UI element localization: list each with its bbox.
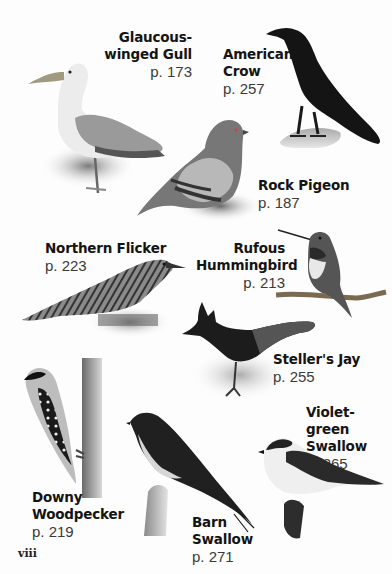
bird-name: Glaucous- <box>80 29 192 46</box>
page-reference: p. 213 <box>196 274 285 291</box>
page-reference: p. 271 <box>192 548 272 565</box>
bird-name: Crow <box>223 63 313 80</box>
pigeon-illustration <box>135 118 265 223</box>
page-number: viii <box>18 547 37 560</box>
bird-name: Rock Pigeon <box>258 177 368 194</box>
flicker-illustration <box>20 250 190 340</box>
woodpecker-illustration <box>20 358 110 498</box>
bird-name: Hummingbird <box>196 257 285 274</box>
bird-label-pigeon: Rock Pigeon p. 187 <box>258 177 368 211</box>
bird-label-gull: Glaucous- winged Gull p. 173 <box>80 29 192 80</box>
bird-label-woodpecker: Downy Woodpecker p. 219 <box>32 489 132 540</box>
bird-label-crow: American Crow p. 257 <box>223 46 313 97</box>
bird-label-jay: Steller's Jay p. 255 <box>273 351 383 385</box>
bird-name: American <box>223 46 313 63</box>
bird-name: Barn <box>192 514 272 531</box>
bird-name: Rufous <box>196 240 285 257</box>
bird-label-barn-swallow: Barn Swallow p. 271 <box>192 514 272 565</box>
page-reference: p. 255 <box>273 368 383 385</box>
page-reference: p. 257 <box>223 80 313 97</box>
bird-name: Woodpecker <box>32 506 132 523</box>
violet-green-swallow-illustration <box>258 434 388 544</box>
bird-name: Swallow <box>192 531 272 548</box>
field-guide-page: Glaucous- winged Gull p. 173 American Cr… <box>0 0 392 574</box>
bird-name: winged Gull <box>80 46 192 63</box>
page-reference: p. 173 <box>80 63 192 80</box>
page-reference: p. 187 <box>258 194 368 211</box>
page-reference: p. 219 <box>32 523 132 540</box>
bird-name: Steller's Jay <box>273 351 383 368</box>
bird-name: Downy <box>32 489 132 506</box>
bird-name: Violet-green <box>306 404 392 438</box>
bird-label-hummingbird: Rufous Hummingbird p. 213 <box>196 240 285 291</box>
